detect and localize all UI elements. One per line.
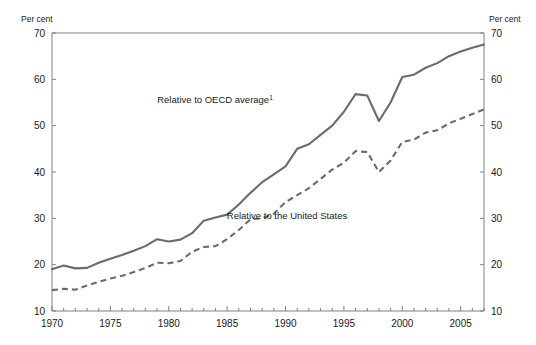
- series-line-1: [52, 45, 484, 270]
- x-tick-label: 1980: [158, 318, 181, 329]
- y-tick-label-right: 10: [491, 306, 503, 317]
- x-tick-label: 1990: [274, 318, 297, 329]
- y-axis-left-ticks: 10203040506070: [34, 28, 56, 317]
- annotation-layer: Relative to OECD average1Relative to the…: [157, 94, 347, 222]
- x-tick-label: 1995: [333, 318, 356, 329]
- y-tick-label-left: 20: [34, 259, 46, 270]
- y-tick-label-right: 30: [491, 213, 503, 224]
- y-tick-label-left: 50: [34, 120, 46, 131]
- x-tick-label: 2005: [450, 318, 473, 329]
- y-axis-right-ticks: 10203040506070: [480, 28, 503, 317]
- x-tick-label: 2000: [391, 318, 414, 329]
- y-tick-label-left: 60: [34, 74, 46, 85]
- y-tick-label-right: 60: [491, 74, 503, 85]
- y-tick-label-right: 70: [491, 28, 503, 39]
- x-tick-label: 1970: [41, 318, 64, 329]
- y-tick-label-left: 40: [34, 167, 46, 178]
- y-tick-label-right: 20: [491, 259, 503, 270]
- annotation-us: Relative to the United States: [227, 210, 348, 221]
- line-chart: Per cent Per cent 10203040506070 1020304…: [0, 0, 536, 345]
- y-tick-label-left: 30: [34, 213, 46, 224]
- y-tick-label-right: 50: [491, 120, 503, 131]
- x-tick-label: 1975: [99, 318, 122, 329]
- series-line-2: [52, 109, 484, 290]
- x-axis-ticks: 19701975198019851990199520002005: [41, 306, 484, 329]
- plot-frame: [52, 33, 484, 311]
- x-tick-label: 1985: [216, 318, 239, 329]
- y-tick-label-right: 40: [491, 167, 503, 178]
- annotation-oecd: Relative to OECD average1: [157, 94, 273, 106]
- y-tick-label-left: 10: [34, 306, 46, 317]
- y-tick-label-left: 70: [34, 28, 46, 39]
- series-layer: [52, 45, 484, 291]
- right-unit-label: Per cent: [489, 14, 521, 24]
- chart-container: Per cent Per cent 10203040506070 1020304…: [0, 0, 536, 345]
- left-unit-label: Per cent: [21, 14, 53, 24]
